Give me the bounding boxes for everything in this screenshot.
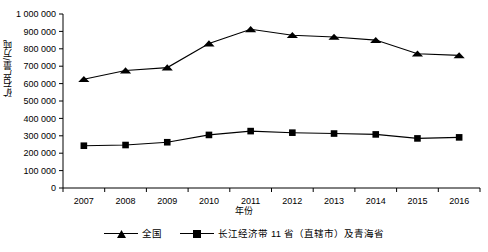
chart-legend: 全国 长江经济带 11 省（直辖市）及青海省 [0,226,488,240]
data-point-marker [331,130,338,137]
square-marker-icon [180,228,214,238]
y-tick-label: 800 000 [23,44,56,54]
y-tick-label: 100 000 [23,166,56,176]
data-point-marker [372,131,379,138]
data-point-marker [414,135,421,142]
data-point-marker [81,142,88,149]
data-point-marker [203,40,214,46]
y-tick-label: 0 [51,183,56,193]
data-point-marker [247,128,254,135]
y-tick-label: 400 000 [23,114,56,124]
y-tick-label: 1 000 000 [16,9,56,19]
data-point-marker [289,129,296,136]
triangle-marker-icon [104,228,138,238]
data-point-marker [456,134,463,141]
y-tick-label: 200 000 [23,148,56,158]
y-tick-label: 900 000 [23,27,56,37]
data-point-marker [78,76,89,82]
legend-item-series-1: 全国 [104,226,162,240]
series-line-2 [84,131,459,146]
data-point-marker [122,142,129,149]
legend-item-series-2: 长江经济带 11 省（直辖市）及青海省 [180,226,383,240]
data-point-marker [245,26,256,32]
y-tick-label: 700 000 [23,61,56,71]
series-line-1 [84,29,459,79]
data-point-marker [164,139,171,146]
legend-label-series-1: 全国 [142,226,162,240]
data-point-marker [206,132,213,139]
y-axis-title: 矿石产量/万吨 [2,40,14,97]
y-tick-label: 500 000 [23,96,56,106]
legend-label-series-2: 长江经济带 11 省（直辖市）及青海省 [218,226,383,240]
chart-container: 矿石产量/万吨 0100 000200 000300 000400 000500… [0,0,488,252]
x-axis-title: 年份 [0,204,488,217]
y-tick-label: 600 000 [23,79,56,89]
y-tick-label: 300 000 [23,131,56,141]
